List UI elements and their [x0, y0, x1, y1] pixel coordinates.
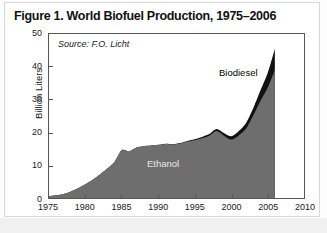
y-tick-mark-20: [49, 133, 53, 134]
x-tick-label-1985: 1985: [101, 202, 141, 212]
source-note: Source: F.O. Licht: [58, 39, 129, 49]
ethanol-area-group: [49, 70, 275, 198]
area-chart-svg: [49, 34, 304, 198]
x-tick-label-1980: 1980: [65, 202, 105, 212]
figure-bottom-strip: [0, 218, 327, 233]
x-tick-mark-2005: [268, 195, 269, 199]
y-tick-mark-40: [49, 66, 53, 67]
series-label-biodiesel: Biodiesel: [219, 67, 258, 78]
y-axis-label: Billion Liters: [33, 34, 44, 154]
x-tick-label-1995: 1995: [175, 202, 215, 212]
ethanol-area-path: [49, 70, 275, 198]
plot-area: [48, 33, 305, 199]
y-tick-label-10: 10: [16, 161, 42, 170]
y-tick-mark-0: [49, 198, 53, 199]
x-tick-label-2010: 2010: [285, 202, 325, 212]
x-tick-mark-1990: [158, 195, 159, 199]
x-tick-mark-1985: [121, 195, 122, 199]
x-tick-label-2000: 2000: [212, 202, 252, 212]
x-tick-label-1990: 1990: [138, 202, 178, 212]
figure-container: Figure 1. World Biofuel Production, 1975…: [0, 0, 327, 233]
y-tick-mark-50: [49, 33, 53, 34]
y-tick-mark-30: [49, 99, 53, 100]
x-tick-label-1975: 1975: [28, 202, 68, 212]
x-tick-mark-1995: [195, 195, 196, 199]
x-tick-mark-2000: [232, 195, 233, 199]
y-tick-mark-10: [49, 166, 53, 167]
x-tick-label-2005: 2005: [248, 202, 288, 212]
figure-title: Figure 1. World Biofuel Production, 1975…: [14, 9, 276, 23]
x-tick-mark-2010: [304, 195, 305, 199]
series-label-ethanol: Ethanol: [147, 158, 179, 169]
x-tick-mark-1975: [48, 195, 49, 199]
x-tick-mark-1980: [85, 195, 86, 199]
